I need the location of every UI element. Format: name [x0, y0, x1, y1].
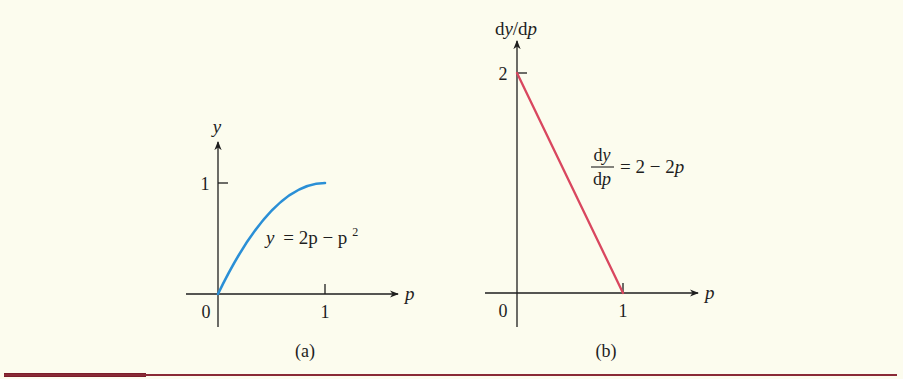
- panel-a-y-axis-label: y: [211, 116, 222, 137]
- panel-b-formula-rhs: = 2 − 2p: [620, 156, 684, 177]
- panel-b-caption: (b): [596, 341, 617, 362]
- panel-b-formula-denominator: dp: [593, 169, 611, 189]
- panel-a-curve-label: y = 2p − p 2: [264, 225, 358, 248]
- panel-a-origin-label: 0: [202, 302, 211, 322]
- bottom-rule-line: [4, 374, 897, 376]
- bottom-rule: [4, 373, 897, 377]
- panel-b-y-axis-label: dy/dp: [495, 18, 537, 39]
- panel-b: dy/dp p 0 1 2 dy dp = 2 − 2p (b): [485, 18, 715, 362]
- panel-a: y p 0 1 1 y = 2p − p 2 (a): [186, 116, 415, 362]
- figure: y p 0 1 1 y = 2p − p 2 (a): [0, 0, 903, 379]
- panel-b-x-tick-label: 1: [619, 301, 628, 321]
- panel-a-caption: (a): [295, 341, 315, 362]
- panel-a-y-tick-label: 1: [201, 174, 210, 194]
- panel-b-origin-label: 0: [499, 301, 508, 321]
- panel-b-formula-numerator: dy: [594, 145, 611, 165]
- panel-b-y-tick-label: 2: [499, 64, 508, 84]
- panel-a-curve-label-exp: 2: [352, 225, 358, 239]
- panel-a-curve-label-rhs: = 2p − p: [283, 227, 347, 248]
- panel-a-x-axis-label: p: [403, 283, 415, 304]
- panel-a-x-tick-label: 1: [321, 302, 330, 322]
- panel-b-x-axis-label: p: [703, 282, 715, 303]
- panel-b-formula: dy dp = 2 − 2p: [591, 145, 684, 189]
- panel-a-curve-label-lhs: y: [264, 227, 275, 248]
